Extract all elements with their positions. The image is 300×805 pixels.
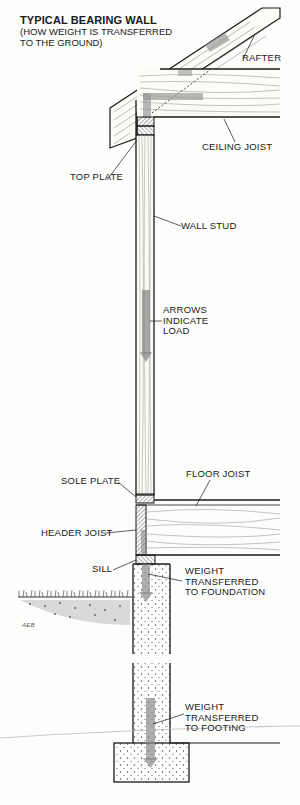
top-plate [137,117,154,135]
label-header-joist: HEADER JOIST [41,528,113,539]
label-sill: SILL [92,564,112,575]
header-joist [136,505,146,555]
diagram-title: TYPICAL BEARING WALL [20,14,157,26]
label-arrows-indicate-load: ARROWS INDICATE LOAD [163,305,208,337]
diagram-subtitle: (HOW WEIGHT IS TRANSFERRED TO THE GROUND… [20,27,172,48]
sole-plate [136,494,154,503]
label-weight-to-foundation: WEIGHT TRANSFERRED TO FOUNDATION [185,566,265,598]
wall-stud [136,100,154,495]
bearing-wall-drawing [0,0,300,805]
artist-signature: AEB [22,620,35,631]
label-ceiling-joist: CEILING JOIST [202,142,272,153]
subtitle-line-2: TO THE GROUND) [20,38,172,49]
ceiling-joist [137,69,280,118]
subtitle-line-1: (HOW WEIGHT IS TRANSFERRED [20,27,172,38]
label-weight-to-footing: WEIGHT TRANSFERRED TO FOOTING [185,702,258,734]
label-wall-stud: WALL STUD [181,221,236,232]
ground-grass [18,590,132,625]
label-rafter: RAFTER [242,53,281,64]
label-sole-plate: SOLE PLATE [61,476,120,487]
sill [136,555,155,564]
label-floor-joist: FLOOR JOIST [186,469,250,480]
floor-joist [136,500,280,555]
label-top-plate: TOP PLATE [70,172,123,183]
